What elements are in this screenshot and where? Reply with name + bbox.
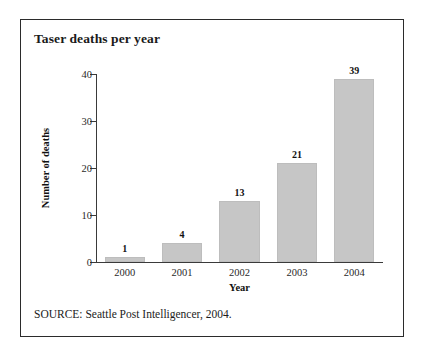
plot-area: 010203040 1200042001132002212003392004 — [96, 74, 383, 262]
chart-title: Taser deaths per year — [34, 31, 160, 47]
x-tick-label: 2001 — [172, 267, 193, 278]
source-note: SOURCE: Seattle Post Intelligencer, 2004… — [34, 308, 232, 320]
x-tick-label: 2002 — [229, 267, 250, 278]
bar-value-label: 1 — [122, 243, 127, 254]
x-tick-label: 2004 — [344, 267, 365, 278]
x-tick-label: 2003 — [286, 267, 307, 278]
bar-group: 132002 — [211, 74, 268, 262]
y-tick-label: 0 — [87, 257, 92, 268]
y-tick-label: 10 — [82, 210, 93, 221]
bar-value-label: 13 — [234, 187, 244, 198]
x-tick-label: 2000 — [114, 267, 135, 278]
bar[interactable] — [277, 163, 317, 262]
bar[interactable] — [162, 243, 202, 262]
y-tick-label: 30 — [82, 116, 93, 127]
bar[interactable] — [105, 257, 145, 262]
x-axis-title: Year — [96, 282, 383, 293]
y-tick-label: 20 — [82, 163, 93, 174]
bar[interactable] — [219, 201, 259, 262]
bar-group: 212003 — [268, 74, 325, 262]
y-tick-label: 40 — [82, 69, 93, 80]
figure-frame: Taser deaths per year 010203040 12000420… — [20, 19, 404, 337]
bar-group: 42001 — [153, 74, 210, 262]
bar-group: 12000 — [96, 74, 153, 262]
bar-value-label: 21 — [292, 149, 302, 160]
y-axis-title: Number of deaths — [40, 128, 51, 208]
bar-value-label: 4 — [180, 229, 185, 240]
bar-group: 392004 — [326, 74, 383, 262]
bar-value-label: 39 — [349, 65, 359, 76]
x-axis-line — [96, 262, 383, 263]
bar[interactable] — [334, 79, 374, 262]
